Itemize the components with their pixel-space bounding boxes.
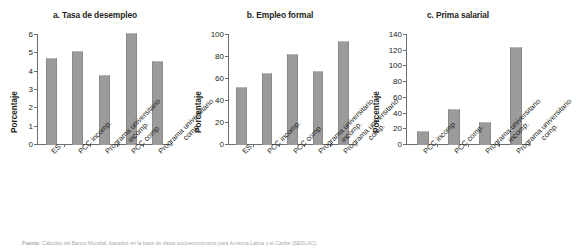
source-footnote: Fuente: Cálculos del Banco Mundial, basa… — [22, 240, 534, 247]
bar — [99, 75, 110, 145]
cropped-top-strip — [0, 0, 546, 6]
source-footnote-label: Fuente: — [22, 240, 41, 246]
y-tick — [34, 71, 37, 72]
panel-c-plot-area: 020406080100120140 — [406, 34, 530, 144]
bar — [236, 87, 247, 145]
y-tick-label: 3 — [29, 85, 33, 94]
bar — [417, 131, 429, 145]
y-tick — [34, 126, 37, 127]
y-tick-label: 2 — [29, 103, 33, 112]
y-tick — [34, 52, 37, 53]
x-tick — [117, 144, 118, 147]
bar — [72, 51, 83, 145]
y-tick — [403, 34, 406, 35]
bar — [510, 47, 522, 145]
bar — [262, 73, 273, 146]
y-tick — [403, 97, 406, 98]
y-tick — [225, 122, 228, 123]
y-tick-label: 0 — [398, 140, 402, 149]
y-tick — [34, 89, 37, 90]
y-tick-label: 80 — [393, 77, 402, 86]
y-tick-label: 4 — [29, 66, 33, 75]
x-tick — [253, 144, 254, 147]
y-tick — [34, 34, 37, 35]
bar — [313, 71, 324, 145]
y-tick — [403, 65, 406, 66]
y-tick-label: 40 — [393, 108, 402, 117]
y-tick — [34, 144, 37, 145]
y-tick — [225, 78, 228, 79]
y-tick — [403, 81, 406, 82]
y-tick — [34, 107, 37, 108]
y-tick-label: 20 — [393, 124, 402, 133]
panels-row: a. Tasa de desempleo Porcentaje 0123456 … — [0, 8, 546, 223]
y-tick-label: 20 — [215, 118, 224, 127]
y-tick-label: 120 — [389, 45, 402, 54]
y-tick-label: 100 — [389, 61, 402, 70]
bar — [46, 58, 57, 145]
panel-b-y-axis — [228, 34, 229, 144]
x-tick — [143, 144, 144, 147]
x-tick — [330, 144, 331, 147]
y-tick-label: 6 — [29, 30, 33, 39]
y-tick-label: 1 — [29, 121, 33, 130]
panel-a-y-axis — [37, 34, 38, 144]
y-tick-label: 140 — [389, 30, 402, 39]
y-tick-label: 60 — [393, 92, 402, 101]
y-tick — [403, 128, 406, 129]
y-tick-label: 40 — [215, 96, 224, 105]
x-tick — [499, 144, 500, 147]
bar — [287, 54, 298, 145]
x-tick — [437, 144, 438, 147]
bar — [126, 33, 137, 145]
chart-panel-b: b. Empleo formal Porcentaje 020406080100… — [190, 8, 370, 223]
panel-c-y-axis — [406, 34, 407, 144]
y-tick — [403, 113, 406, 114]
panel-c-ylabel: Porcentaje — [372, 91, 381, 133]
y-tick — [403, 144, 406, 145]
x-tick — [279, 144, 280, 147]
y-tick-label: 0 — [220, 140, 224, 149]
x-tick — [64, 144, 65, 147]
y-tick — [225, 144, 228, 145]
y-tick — [403, 50, 406, 51]
source-footnote-text: Cálculos del Banco Mundial, basados en l… — [41, 240, 318, 246]
y-tick — [225, 100, 228, 101]
panel-b-ylabel: Porcentaje — [194, 91, 203, 133]
bar — [448, 109, 460, 145]
y-tick-label: 80 — [215, 52, 224, 61]
panel-b-plot-area: 020406080100 — [228, 34, 355, 144]
bar — [338, 41, 349, 145]
panel-a-title: a. Tasa de desempleo — [0, 10, 190, 20]
y-tick — [225, 56, 228, 57]
chart-panel-c: c. Prima salarial Porcentaje 02040608010… — [370, 8, 546, 223]
panel-a-ylabel: Porcentaje — [10, 91, 19, 133]
y-tick-label: 0 — [29, 140, 33, 149]
bar — [152, 61, 163, 145]
bar — [479, 122, 491, 145]
x-tick — [468, 144, 469, 147]
panel-a-plot-area: 0123456 — [37, 34, 170, 144]
y-tick-label: 5 — [29, 48, 33, 57]
x-tick — [90, 144, 91, 147]
x-tick — [304, 144, 305, 147]
panel-b-title: b. Empleo formal — [190, 10, 370, 20]
chart-panel-a: a. Tasa de desempleo Porcentaje 0123456 … — [0, 8, 190, 223]
y-tick-label: 100 — [211, 30, 224, 39]
y-tick-label: 60 — [215, 74, 224, 83]
panel-c-title: c. Prima salarial — [370, 10, 546, 20]
y-tick — [225, 34, 228, 35]
